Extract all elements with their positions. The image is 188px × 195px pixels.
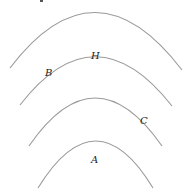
arcs-svg bbox=[0, 0, 188, 195]
label-h: H bbox=[91, 51, 100, 61]
label-b: B bbox=[45, 68, 52, 78]
cropped-glyph-fragment bbox=[40, 0, 43, 2]
arc-outermost bbox=[10, 12, 182, 70]
diagram-canvas: H B C A bbox=[0, 0, 188, 195]
label-a: A bbox=[91, 155, 98, 165]
arc-second bbox=[20, 57, 172, 106]
label-c: C bbox=[140, 116, 148, 126]
